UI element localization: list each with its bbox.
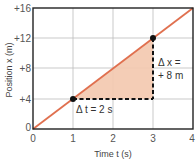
delta-x-annotation-line2: + 8 m [158,70,183,81]
x-tick: 4 [189,133,195,144]
x-tick: 1 [70,133,76,144]
point-t1 [70,96,76,102]
point-t3 [150,35,156,41]
x-tick: 3 [150,133,156,144]
x-tick: 2 [110,133,116,144]
y-tick: 0 [25,122,31,133]
y-tick: +4 [20,94,32,105]
delta-x-annotation-line1: Δ x = [158,57,181,68]
x-tick-labels: 0 1 2 3 4 [30,133,195,144]
position-time-chart: +16 +12 +8 +4 0 0 1 2 3 4 Time t (s) Pos… [0,0,196,161]
y-tick: +8 [20,63,32,74]
x-axis-label: Time t (s) [94,149,132,159]
y-tick-labels: +16 +12 +8 +4 0 [14,3,31,133]
y-tick: +12 [14,33,31,44]
y-axis-label: Position x (m) [4,42,14,97]
delta-t-annotation: Δ t = 2 s [76,104,112,115]
y-tick: +16 [14,3,31,14]
x-tick: 0 [30,133,36,144]
